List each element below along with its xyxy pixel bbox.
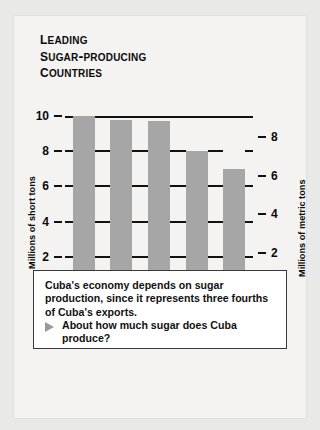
gridline-8-seg-2 [132, 150, 148, 152]
gridline-8-seg-0 [65, 150, 73, 152]
y-tick-label-right-8: 8 [271, 130, 291, 144]
gridline-2-seg-4 [208, 256, 224, 258]
gridline-6-seg-2 [132, 185, 148, 187]
y-tick-right-6 [258, 175, 266, 177]
y-tick-label-left-10: 10 [27, 109, 49, 123]
gridline-8-seg-5 [245, 150, 253, 152]
title-line-3: Countries [40, 64, 270, 81]
y-tick-left-8 [54, 150, 62, 152]
gridline-4-seg-1 [95, 221, 111, 223]
gridline-4-seg-0 [65, 221, 73, 223]
y-tick-right-8 [258, 136, 266, 138]
triangle-right-icon [45, 322, 54, 332]
page-background: Leading Sugar-Producing Countries Millio… [0, 0, 320, 430]
gridline-6-seg-1 [95, 185, 111, 187]
caption-body: Cuba's economy depends on sugar producti… [45, 279, 277, 319]
page-title: Leading Sugar-Producing Countries [40, 31, 270, 81]
y-tick-left-6 [54, 185, 62, 187]
title-line-2: Sugar-Producing [40, 48, 270, 65]
y-tick-left-10 [54, 115, 62, 117]
y-tick-right-2 [258, 252, 266, 254]
gridline-8-seg-4 [208, 150, 224, 152]
y-tick-label-left-6: 6 [27, 179, 49, 193]
gridline-6-seg-4 [208, 185, 224, 187]
caption-question-row: About how much sugar does Cuba produce? [45, 319, 281, 346]
y-tick-left-4 [54, 221, 62, 223]
y-tick-label-right-2: 2 [271, 246, 291, 260]
y-tick-label-left-2: 2 [27, 250, 49, 264]
gridline-4-seg-4 [208, 221, 224, 223]
y-tick-label-left-4: 4 [27, 215, 49, 229]
gridline-4-seg-5 [245, 221, 253, 223]
caption-question: About how much sugar does Cuba produce? [62, 319, 281, 346]
gridline-2-seg-3 [170, 256, 186, 258]
y-tick-label-right-6: 6 [271, 169, 291, 183]
gridline-2-seg-1 [95, 256, 111, 258]
gridline-6-seg-3 [170, 185, 186, 187]
bar-soviet-union [148, 121, 170, 292]
gridline-8-seg-1 [95, 150, 111, 152]
gridline-4-seg-3 [170, 221, 186, 223]
gridline-2-seg-0 [65, 256, 73, 258]
gridline-2-seg-5 [245, 256, 253, 258]
y-tick-left-2 [54, 256, 62, 258]
bar-brazil [110, 120, 132, 292]
y-axis-title-right: Millions of metric tons [297, 180, 307, 278]
figure-card: Leading Sugar-Producing Countries Millio… [13, 15, 307, 419]
caption-box: Cuba's economy depends on sugar producti… [33, 270, 287, 349]
plot-area [65, 116, 253, 292]
gridline-6-seg-5 [245, 185, 253, 187]
gridline-4-seg-2 [132, 221, 148, 223]
bar-india [73, 116, 95, 292]
gridline-2-seg-2 [132, 256, 148, 258]
y-tick-label-left-8: 8 [27, 144, 49, 158]
gridline-8-seg-3 [170, 150, 186, 152]
gridline-6-seg-0 [65, 185, 73, 187]
y-tick-label-right-4: 4 [271, 207, 291, 221]
title-line-1: Leading [40, 31, 270, 48]
y-tick-right-4 [258, 213, 266, 215]
